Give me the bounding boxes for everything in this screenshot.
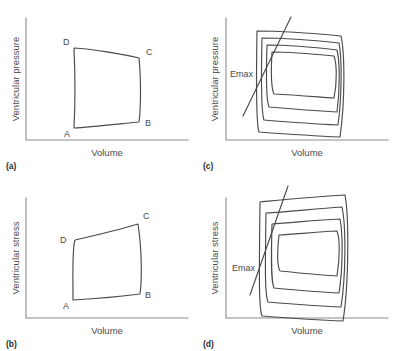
panel-c-axes [226,18,388,140]
panel-d-axes [226,198,388,318]
panel-b-tag: (b) [6,339,17,349]
panel-c-loop-1 [271,52,336,98]
panel-c-emax-label: Emax [230,69,254,79]
panel-b-vertex-label-a: A [63,301,69,311]
panel-a-tag: (a) [6,161,17,171]
panel-a-plot: A B C D Volume Ventricular pressure (a) [0,0,197,175]
panel-b-vertex-label-c: C [143,211,150,221]
panel-b-vertex-label-d: D [60,235,67,245]
panel-d-tag: (d) [203,339,214,349]
panel-a-vertex-label-d: D [63,37,70,47]
panel-a-xlabel: Volume [91,147,123,158]
panel-d-xlabel: Volume [291,325,323,336]
panel-d-loop-2 [271,219,342,293]
panel-d-emax-label: Emax [232,263,256,273]
panel-b-xlabel: Volume [91,325,123,336]
panel-b-stress-volume-loop: A B C D Volume Ventricular stress (b) [0,176,197,351]
panel-d-emax-line [250,186,288,295]
panel-c-tag: (c) [203,161,214,171]
panel-b-axes [26,198,188,318]
panel-a-vertex-label-c: C [146,47,153,57]
panel-b-vertex-label-b: B [145,290,151,300]
figure-container: A B C D Volume Ventricular pressure (a) … [0,0,394,351]
panel-b-loop [73,224,141,300]
panel-a-axes [26,18,188,140]
panel-c-emax-line [243,17,291,116]
panel-a-ylabel: Ventricular pressure [10,37,21,121]
panel-d-plot: Emax Volume Ventricular stress (d) [197,176,394,351]
panel-c-ylabel: Ventricular pressure [209,37,220,121]
panel-a-pressure-volume-loop: A B C D Volume Ventricular pressure (a) [0,0,197,175]
panel-b-ylabel: Ventricular stress [10,221,21,294]
panel-d-stress-volume-family: Emax Volume Ventricular stress (d) [197,176,394,351]
panel-c-xlabel: Volume [291,147,323,158]
panel-b-plot: A B C D Volume Ventricular stress (b) [0,176,197,351]
panel-a-vertex-label-a: A [64,129,70,139]
panel-d-loop-1 [278,231,340,276]
panel-a-loop [74,48,141,128]
panel-c-pressure-volume-family: Emax Volume Ventricular pressure (c) [197,0,394,175]
panel-c-plot: Emax Volume Ventricular pressure (c) [197,0,394,175]
panel-a-vertex-label-b: B [145,118,151,128]
panel-d-ylabel: Ventricular stress [209,221,220,294]
